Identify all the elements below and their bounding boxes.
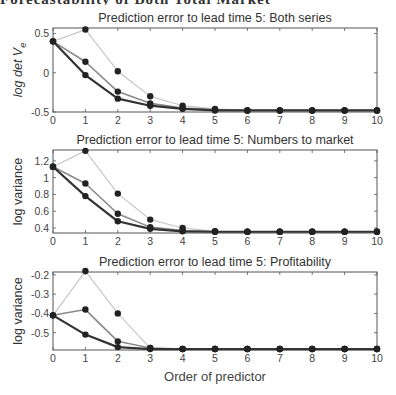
x-tick-label: 1 — [82, 235, 88, 247]
figure: Prediction error to lead time 5: Both se… — [0, 0, 396, 395]
data-point-dark — [147, 226, 153, 232]
data-point-dark — [147, 346, 153, 352]
y-tick-label: -0.2 — [31, 269, 49, 281]
series-line-medium — [53, 167, 377, 232]
series-line-medium — [53, 41, 377, 110]
data-point-medium — [115, 211, 121, 217]
data-point-dark — [374, 346, 380, 352]
x-tick-label: 6 — [244, 114, 250, 126]
x-tick-label: 6 — [244, 235, 250, 247]
y-tick-label: -0.3 — [31, 288, 49, 300]
y-tick-label: 0.8 — [34, 188, 49, 200]
x-tick-label: 7 — [277, 114, 283, 126]
x-tick-label: 0 — [50, 235, 56, 247]
x-tick-label: 10 — [371, 235, 383, 247]
data-point-dark — [309, 346, 315, 352]
data-point-dark — [277, 107, 283, 113]
x-tick-label: 7 — [277, 352, 283, 364]
data-point-dark — [309, 229, 315, 235]
data-point-dark — [50, 312, 56, 318]
data-point-dark — [341, 229, 347, 235]
y-tick-label: 1 — [43, 172, 49, 184]
data-point-dark — [82, 72, 88, 78]
x-tick-label: 0 — [50, 114, 56, 126]
data-point-dark — [179, 346, 185, 352]
x-tick-label: 3 — [147, 235, 153, 247]
data-point-dark — [374, 107, 380, 113]
x-tick-label: 2 — [115, 114, 121, 126]
x-tick-label: 9 — [342, 235, 348, 247]
data-point-light — [115, 68, 121, 74]
panel-title: Prediction error to lead time 5: Both se… — [98, 11, 331, 25]
data-point-medium — [82, 306, 88, 312]
data-point-dark — [309, 107, 315, 113]
data-point-dark — [115, 95, 121, 101]
y-tick-label: 0.6 — [34, 205, 49, 217]
x-axis-label: Order of predictor — [164, 369, 267, 384]
x-tick-label: 5 — [212, 352, 218, 364]
series-line-light — [53, 151, 377, 232]
data-point-dark — [212, 107, 218, 113]
data-point-medium — [82, 59, 88, 65]
data-point-dark — [277, 229, 283, 235]
x-tick-label: 7 — [277, 235, 283, 247]
data-point-light — [147, 216, 153, 222]
x-tick-label: 3 — [147, 352, 153, 364]
x-tick-label: 10 — [371, 114, 383, 126]
axes-box — [53, 272, 377, 350]
data-point-dark — [341, 107, 347, 113]
x-tick-label: 4 — [180, 235, 186, 247]
x-tick-label: 9 — [342, 114, 348, 126]
y-tick-label: 1.2 — [34, 155, 49, 167]
data-point-dark — [244, 229, 250, 235]
data-point-dark — [212, 346, 218, 352]
x-tick-label: 2 — [115, 235, 121, 247]
data-point-dark — [244, 107, 250, 113]
series-line-dark — [53, 315, 377, 349]
data-point-medium — [115, 88, 121, 94]
x-tick-label: 9 — [342, 352, 348, 364]
y-axis-label: log det Ve — [11, 43, 28, 97]
x-tick-label: 10 — [371, 352, 383, 364]
data-point-light — [82, 268, 88, 274]
x-tick-label: 2 — [115, 352, 121, 364]
x-tick-label: 8 — [309, 235, 315, 247]
x-tick-label: 5 — [212, 114, 218, 126]
axes-box — [53, 150, 377, 233]
data-point-light — [82, 148, 88, 154]
data-point-light — [82, 26, 88, 32]
series-line-medium — [53, 310, 377, 349]
data-point-dark — [374, 229, 380, 235]
panel-title: Prediction error to lead time 5: Numbers… — [76, 133, 354, 147]
data-point-dark — [82, 193, 88, 199]
data-point-dark — [115, 344, 121, 350]
x-tick-label: 8 — [309, 352, 315, 364]
series-line-light — [53, 30, 377, 111]
x-tick-label: 3 — [147, 114, 153, 126]
panel-title: Prediction error to lead time 5: Profita… — [99, 255, 332, 269]
data-point-medium — [115, 338, 121, 344]
series-line-light — [53, 271, 377, 349]
y-tick-label: 0.5 — [34, 27, 49, 39]
x-tick-label: 6 — [244, 352, 250, 364]
y-axis-label: log variance — [11, 158, 25, 225]
y-axis-label: log variance — [11, 277, 25, 344]
x-tick-label: 1 — [82, 352, 88, 364]
data-point-dark — [82, 331, 88, 337]
y-tick-label: 0.4 — [34, 222, 49, 234]
x-tick-label: 8 — [309, 114, 315, 126]
data-point-dark — [50, 38, 56, 44]
data-point-dark — [244, 346, 250, 352]
y-tick-label: -0.5 — [31, 106, 49, 118]
data-point-dark — [50, 164, 56, 170]
data-point-dark — [179, 106, 185, 112]
x-tick-label: 0 — [50, 352, 56, 364]
y-tick-label: 0 — [43, 67, 49, 79]
data-point-dark — [147, 103, 153, 109]
x-tick-label: 4 — [180, 352, 186, 364]
data-point-light — [115, 310, 121, 316]
x-tick-label: 4 — [180, 114, 186, 126]
data-point-dark — [341, 346, 347, 352]
data-point-medium — [82, 180, 88, 186]
data-point-dark — [179, 228, 185, 234]
